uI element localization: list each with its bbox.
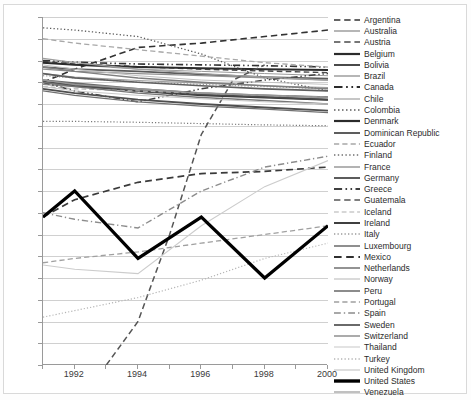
legend-item-austria[interactable]: Austria — [333, 37, 465, 48]
legend-item-label: Luxembourg — [364, 241, 411, 251]
x-axis-minor-tick — [232, 365, 233, 369]
y-axis-tick-mark — [38, 104, 42, 105]
legend-item-chile[interactable]: Chile — [333, 93, 465, 104]
x-axis-tick-mark — [74, 365, 75, 369]
legend-line-swatch-icon — [333, 252, 361, 262]
legend-item-australia[interactable]: Australia — [333, 25, 465, 36]
legend-line-swatch-icon — [333, 308, 361, 318]
legend-item-iceland[interactable]: Iceland — [333, 206, 465, 217]
legend-item-label: Venezuela — [364, 387, 404, 397]
legend-line-swatch-icon — [333, 274, 361, 284]
x-axis-tick-mark — [137, 365, 138, 369]
legend-item-label: Peru — [364, 286, 382, 296]
legend-item-netherlands[interactable]: Netherlands — [333, 263, 465, 274]
legend-item-label: Spain — [364, 308, 386, 318]
y-axis-tick-mark — [38, 322, 42, 323]
y-axis-tick-mark — [38, 213, 42, 214]
legend-item-norway[interactable]: Norway — [333, 274, 465, 285]
x-axis-tick-label: 1992 — [54, 369, 94, 379]
legend-item-label: Greece — [364, 184, 392, 194]
series-line-united-states — [43, 191, 328, 278]
legend-line-swatch-icon — [333, 128, 361, 138]
legend-item-guatemala[interactable]: Guatemala — [333, 195, 465, 206]
legend-item-ireland[interactable]: Ireland — [333, 217, 465, 228]
legend-line-swatch-icon — [333, 218, 361, 228]
legend-line-swatch-icon — [333, 195, 361, 205]
legend-item-label: Mexico — [364, 252, 391, 262]
legend-item-luxembourg[interactable]: Luxembourg — [333, 240, 465, 251]
legend-item-belgium[interactable]: Belgium — [333, 48, 465, 59]
legend-item-label: United Kingdom — [364, 365, 424, 375]
legend-item-brazil[interactable]: Brazil — [333, 70, 465, 81]
legend-line-swatch-icon — [333, 229, 361, 239]
legend-item-italy[interactable]: Italy — [333, 229, 465, 240]
legend-item-dominican-republic[interactable]: Dominican Republic — [333, 127, 465, 138]
y-axis-tick-mark — [38, 169, 42, 170]
legend-item-label: France — [364, 162, 390, 172]
legend-item-label: Denmark — [364, 116, 398, 126]
legend-item-label: Ecuador — [364, 139, 396, 149]
legend-item-thailand[interactable]: Thailand — [333, 342, 465, 353]
x-axis-minor-tick — [42, 365, 43, 369]
legend-item-label: Australia — [364, 26, 397, 36]
legend-item-germany[interactable]: Germany — [333, 172, 465, 183]
legend-item-portugal[interactable]: Portugal — [333, 296, 465, 307]
legend-item-label: Belgium — [364, 49, 395, 59]
legend-item-finland[interactable]: Finland — [333, 150, 465, 161]
legend-item-argentina[interactable]: Argentina — [333, 14, 465, 25]
y-axis-tick-mark — [38, 148, 42, 149]
legend-line-swatch-icon — [333, 26, 361, 36]
legend-item-switzerland[interactable]: Switzerland — [333, 330, 465, 341]
legend-item-peru[interactable]: Peru — [333, 285, 465, 296]
legend-line-swatch-icon — [333, 173, 361, 183]
legend-line-swatch-icon — [333, 207, 361, 217]
legend-item-label: Turkey — [364, 354, 390, 364]
x-axis-tick-label: 1996 — [180, 369, 220, 379]
legend-line-swatch-icon — [333, 49, 361, 59]
legend-item-label: Finland — [364, 150, 392, 160]
legend-line-swatch-icon — [333, 297, 361, 307]
legend-item-ecuador[interactable]: Ecuador — [333, 138, 465, 149]
x-axis-tick-label: 1998 — [244, 369, 284, 379]
legend-line-swatch-icon — [333, 37, 361, 47]
legend-item-denmark[interactable]: Denmark — [333, 116, 465, 127]
x-axis-minor-tick — [105, 365, 106, 369]
y-axis-tick-mark — [38, 61, 42, 62]
legend-item-united-states[interactable]: United States — [333, 376, 465, 387]
chart-screenshot: 9590858075706560555045403530252015199219… — [0, 0, 471, 400]
series-line-turkey — [43, 243, 328, 317]
legend-item-label: Portugal — [364, 297, 396, 307]
legend-item-label: Ireland — [364, 218, 390, 228]
legend-line-swatch-icon — [333, 162, 361, 172]
legend-line-swatch-icon — [333, 286, 361, 296]
legend-item-spain[interactable]: Spain — [333, 308, 465, 319]
legend-item-canada[interactable]: Canada — [333, 82, 465, 93]
legend-item-label: Chile — [364, 94, 383, 104]
legend-item-label: Dominican Republic — [364, 128, 440, 138]
y-axis-tick-mark — [38, 343, 42, 344]
legend-item-label: Thailand — [364, 342, 397, 352]
legend-item-bolivia[interactable]: Bolivia — [333, 59, 465, 70]
legend-item-mexico[interactable]: Mexico — [333, 251, 465, 262]
y-axis-tick-mark — [38, 191, 42, 192]
y-axis-tick-mark — [38, 17, 42, 18]
legend-item-greece[interactable]: Greece — [333, 183, 465, 194]
legend-item-venezuela[interactable]: Venezuela — [333, 387, 465, 398]
legend-line-swatch-icon — [333, 15, 361, 25]
legend-item-label: Iceland — [364, 207, 391, 217]
legend-item-france[interactable]: France — [333, 161, 465, 172]
legend-item-sweden[interactable]: Sweden — [333, 319, 465, 330]
legend-item-colombia[interactable]: Colombia — [333, 104, 465, 115]
y-axis-tick-mark — [38, 39, 42, 40]
legend-line-swatch-icon — [333, 331, 361, 341]
legend-item-turkey[interactable]: Turkey — [333, 353, 465, 364]
chart-legend: ArgentinaAustraliaAustriaBelgiumBoliviaB… — [333, 14, 465, 398]
legend-line-swatch-icon — [333, 320, 361, 330]
legend-line-swatch-icon — [333, 365, 361, 375]
x-axis-minor-tick — [169, 365, 170, 369]
legend-item-united-kingdom[interactable]: United Kingdom — [333, 364, 465, 375]
legend-line-swatch-icon — [333, 116, 361, 126]
series-line-mexico — [43, 167, 328, 217]
y-axis-tick-mark — [38, 235, 42, 236]
legend-item-label: Bolivia — [364, 60, 389, 70]
